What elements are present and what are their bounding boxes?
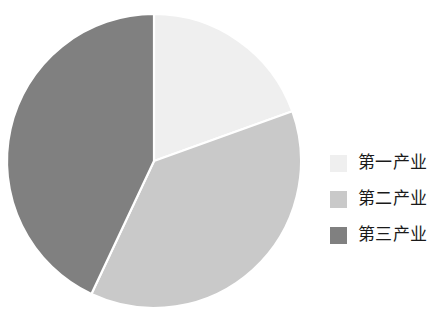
legend-swatch-icon bbox=[330, 155, 347, 172]
legend-item-secondary-industry[interactable]: 第二产业 bbox=[330, 188, 440, 210]
legend-label-primary-industry: 第一产业 bbox=[358, 153, 427, 173]
pie-chart-figure: 第一产业 第二产业 第三产业 bbox=[0, 0, 440, 312]
legend-swatch-icon bbox=[330, 191, 347, 208]
legend-swatch-icon bbox=[330, 227, 347, 244]
pie-slice-group bbox=[7, 14, 301, 308]
legend-item-primary-industry[interactable]: 第一产业 bbox=[330, 152, 440, 174]
legend-label-secondary-industry: 第二产业 bbox=[358, 189, 427, 209]
chart-legend: 第一产业 第二产业 第三产业 bbox=[330, 152, 440, 246]
legend-item-tertiary-industry[interactable]: 第三产业 bbox=[330, 224, 440, 246]
legend-label-tertiary-industry: 第三产业 bbox=[358, 225, 427, 245]
